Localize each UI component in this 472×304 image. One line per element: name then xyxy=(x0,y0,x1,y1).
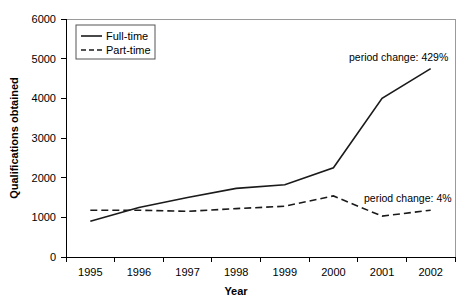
x-tick-label: 1998 xyxy=(224,266,248,278)
legend-label-full-time: Full-time xyxy=(106,30,148,42)
x-axis-ticks xyxy=(66,257,455,262)
x-axis-title: Year xyxy=(224,285,248,297)
x-tick-label: 1996 xyxy=(127,266,151,278)
y-tick-label: 2000 xyxy=(32,172,56,184)
annotation-fulltime-period-change: period change: 429% xyxy=(349,51,448,63)
annotation-parttime-period-change: period change: 4% xyxy=(364,192,452,204)
x-tick-label: 2001 xyxy=(370,266,394,278)
chart-legend: Full-time Part-time xyxy=(76,25,155,59)
x-tick-label: 1995 xyxy=(78,266,102,278)
y-tick-label: 6000 xyxy=(32,13,56,25)
y-axis-ticks xyxy=(61,19,66,257)
y-tick-label: 0 xyxy=(50,251,56,263)
x-tick-label: 1999 xyxy=(273,266,297,278)
y-tick-label: 1000 xyxy=(32,211,56,223)
x-axis-tick-labels: 1995 1996 1997 1998 1999 2000 2001 2002 xyxy=(78,266,443,278)
y-tick-label: 5000 xyxy=(32,53,56,65)
y-axis-title: Qualifications obtained xyxy=(8,77,20,199)
x-tick-label: 1997 xyxy=(175,266,199,278)
line-chart: 0 1000 2000 3000 4000 5000 6000 Qualific… xyxy=(0,0,472,304)
y-tick-label: 4000 xyxy=(32,92,56,104)
legend-label-part-time: Part-time xyxy=(106,44,151,56)
x-tick-label: 2002 xyxy=(418,266,442,278)
x-tick-label: 2000 xyxy=(321,266,345,278)
chart-canvas: 0 1000 2000 3000 4000 5000 6000 Qualific… xyxy=(0,0,472,304)
y-axis-tick-labels: 0 1000 2000 3000 4000 5000 6000 xyxy=(32,13,56,263)
y-tick-label: 3000 xyxy=(32,132,56,144)
